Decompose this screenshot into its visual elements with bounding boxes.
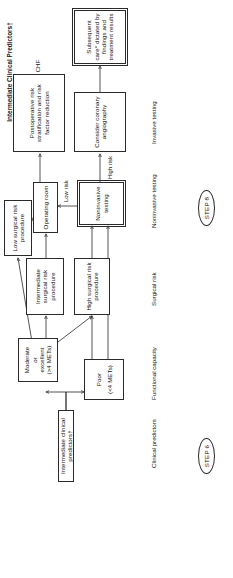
row-label-clinical-predictors: Clinical predictors xyxy=(150,419,157,468)
node-label-line1: Poor xyxy=(95,373,102,386)
node-label-line1: Moderate xyxy=(23,347,30,374)
edge-label-high-risk: High risk xyxy=(107,156,113,179)
rotated-figure-wrapper: Intermediate Clinical Predictors† Mild a… xyxy=(0,0,233,578)
node-consider-coronary-angiography[interactable]: Consider coronary angiography xyxy=(74,92,126,152)
node-noninvasive-testing[interactable]: Noninvasive testing xyxy=(79,182,124,225)
node-label-line4: (>4 METs) xyxy=(45,346,52,375)
node-label-line2: (<4 METs) xyxy=(106,365,113,394)
row-label-functional-capacity: Functional capacity xyxy=(150,347,157,400)
step-marker-8: STEP 8 xyxy=(198,190,215,226)
node-label: Operating room xyxy=(42,186,49,230)
node-label: High surgical risk procedure xyxy=(85,261,100,312)
node-moderate-or-excellent-functional-capacity[interactable]: Moderate or excellent (>4 METs) xyxy=(18,338,58,382)
node-label: Subsequent care* dictated by findings an… xyxy=(85,13,115,61)
node-high-surgical-risk-procedure[interactable]: High surgical risk procedure xyxy=(74,258,110,315)
node-label: Consider coronary angiography xyxy=(93,95,108,149)
node-poor-functional-capacity[interactable]: Poor (<4 METs) xyxy=(84,359,124,400)
node-label: Intermediate clinical predictors† xyxy=(59,413,74,479)
row-label-surgical-risk: Surgical risk xyxy=(150,272,157,306)
node-postoperative-risk-stratification[interactable]: Postoperative risk stratification and ri… xyxy=(13,74,65,152)
node-label: Low surgical risk procedure xyxy=(11,203,26,253)
node-intermediate-surgical-risk-procedure[interactable]: Intermediate surgical risk procedure xyxy=(26,258,64,315)
node-label: Intermediate surgical risk procedure xyxy=(34,261,56,312)
step-marker-label: STEP 6 xyxy=(203,445,210,467)
node-label-line3: excellent xyxy=(38,348,45,373)
step-marker-6: STEP 6 xyxy=(198,438,215,474)
node-label-line2: or xyxy=(31,357,38,363)
edge-label-low-risk: Low risk xyxy=(63,180,69,202)
step-marker-label: STEP 8 xyxy=(203,197,210,219)
node-operating-room[interactable]: Operating room xyxy=(33,182,58,233)
node-label: Noninvasive testing xyxy=(94,185,109,222)
node-subsequent-care[interactable]: Subsequent care* dictated by findings an… xyxy=(74,10,126,64)
flowchart-canvas: Intermediate Clinical Predictors† Mild a… xyxy=(0,0,233,578)
row-label-noninvasive-testing: Noninvasive testing xyxy=(150,174,157,228)
node-intermediate-clinical-predictors[interactable]: Intermediate clinical predictors† xyxy=(58,410,74,482)
row-label-invasive-testing: Invasive testing xyxy=(150,101,157,144)
node-label: Postoperative risk stratification and ri… xyxy=(28,77,50,149)
node-low-surgical-risk-procedure[interactable]: Low surgical risk procedure xyxy=(4,200,32,256)
